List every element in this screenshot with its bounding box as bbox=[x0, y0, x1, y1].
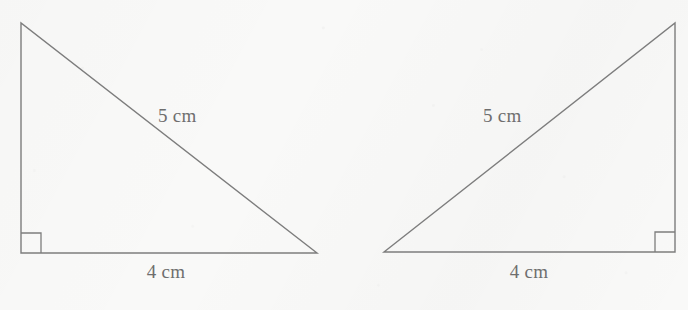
right-right-angle-marker bbox=[655, 232, 675, 252]
left-base-label: 4 cm bbox=[147, 262, 186, 281]
right-triangle bbox=[384, 23, 675, 252]
left-triangle bbox=[21, 23, 317, 253]
right-triangle-outline bbox=[384, 23, 675, 252]
left-triangle-outline bbox=[21, 23, 317, 253]
left-right-angle-marker bbox=[21, 233, 41, 253]
triangles-diagram bbox=[0, 0, 688, 310]
figure-canvas: 5 cm 4 cm 5 cm 4 cm bbox=[0, 0, 688, 310]
right-hypotenuse-label: 5 cm bbox=[483, 106, 522, 125]
right-base-label: 4 cm bbox=[510, 262, 549, 281]
left-hypotenuse-label: 5 cm bbox=[158, 106, 197, 125]
